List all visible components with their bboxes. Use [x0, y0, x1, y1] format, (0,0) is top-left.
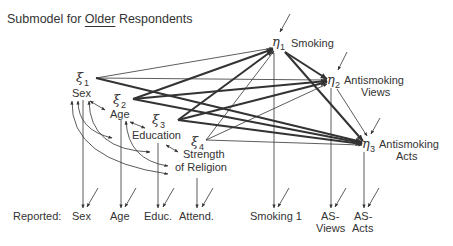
svg-text:1: 1	[280, 42, 285, 52]
reported-prefix: Reported:	[13, 210, 61, 222]
svg-text:Sex: Sex	[72, 87, 91, 99]
svg-text:η: η	[362, 136, 370, 151]
measurement-error-arrows	[87, 188, 379, 207]
svg-text:of Religion: of Religion	[175, 161, 227, 173]
reported-as-acts-line1: AS-	[354, 210, 373, 222]
xi4-node: ξ 4 Strength of Religion	[175, 134, 227, 173]
eta2-node: η 2 Antismoking Views	[327, 72, 404, 98]
reported-as-views-line2: Views	[316, 222, 346, 234]
svg-text:Age: Age	[110, 108, 130, 120]
path-eta1-eta3	[285, 52, 363, 141]
svg-text:ξ: ξ	[152, 112, 160, 127]
svg-text:ξ: ξ	[191, 134, 199, 149]
svg-text:η: η	[327, 72, 335, 87]
eta3-node: η 3 Antismoking Acts	[362, 136, 439, 162]
xi3-node: ξ 3 Education	[132, 112, 181, 141]
xi1-node: ξ 1 Sex	[72, 70, 91, 99]
svg-text:Antismoking: Antismoking	[379, 138, 439, 150]
reported-sex: Sex	[72, 210, 91, 222]
reported-age: Age	[110, 210, 130, 222]
reported-attend: Attend.	[179, 210, 214, 222]
path-xi2-eta1	[133, 49, 273, 99]
svg-text:3: 3	[370, 144, 375, 154]
svg-text:Antismoking: Antismoking	[344, 74, 404, 86]
reported-educ: Educ.	[144, 210, 172, 222]
xi2-node: ξ 2 Age	[110, 92, 130, 120]
reported-smoking: Smoking 1	[250, 210, 302, 222]
svg-text:η: η	[272, 34, 280, 49]
svg-text:2: 2	[335, 80, 340, 90]
svg-text:Views: Views	[361, 86, 391, 98]
svg-text:ξ: ξ	[113, 92, 121, 107]
path-xi3-eta3	[178, 120, 362, 144]
svg-text:Acts: Acts	[396, 150, 418, 162]
path-xi1-eta2	[96, 78, 327, 80]
reported-row: Reported: Sex Age Educ. Attend. Smoking …	[13, 210, 374, 234]
path-diagram: ξ 1 Sex ξ 2 Age ξ 3 Education ξ 4 Streng…	[0, 0, 453, 246]
path-xi1-eta1	[96, 48, 273, 78]
path-xi4-eta1	[206, 51, 274, 140]
eta1-node: η 1 Smoking	[272, 34, 334, 52]
reported-as-acts-line2: Acts	[352, 222, 374, 234]
svg-text:Smoking: Smoking	[291, 37, 334, 49]
svg-text:Education: Education	[132, 129, 181, 141]
svg-text:ξ: ξ	[76, 70, 84, 85]
svg-text:Strength: Strength	[183, 148, 225, 160]
reported-as-views-line1: AS-	[321, 210, 340, 222]
